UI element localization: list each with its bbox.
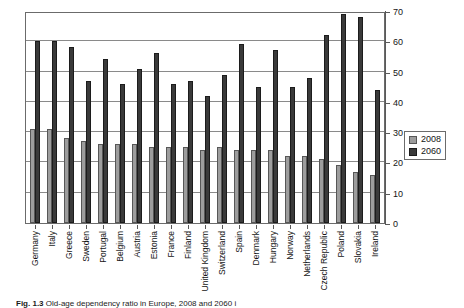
bar-group bbox=[27, 13, 44, 223]
x-tick bbox=[120, 225, 121, 229]
bar-2060 bbox=[69, 47, 74, 223]
x-label-slot: Finland bbox=[179, 225, 196, 297]
x-tick bbox=[86, 225, 87, 229]
x-tick-label: Sweden bbox=[81, 231, 90, 262]
x-tick bbox=[273, 225, 274, 229]
y-tick-0 bbox=[385, 224, 390, 225]
bar-2060 bbox=[137, 69, 142, 223]
figure-caption: Fig. 1.3 Old-age dependency ratio in Eur… bbox=[16, 299, 456, 308]
y-tick-60 bbox=[385, 42, 390, 43]
x-tick bbox=[222, 225, 223, 229]
bar-group bbox=[349, 13, 366, 223]
x-tick-label: France bbox=[166, 231, 175, 257]
x-tick-label: Portugal bbox=[98, 231, 107, 263]
x-axis-labels: GermanyItalyGreeceSwedenPortugalBelgiumA… bbox=[25, 225, 385, 297]
x-tick bbox=[52, 225, 53, 229]
chart-legend: 2008 2060 bbox=[404, 131, 446, 160]
x-tick bbox=[375, 225, 376, 229]
y-tick-30 bbox=[385, 133, 390, 134]
x-tick bbox=[35, 225, 36, 229]
bar-2060 bbox=[341, 14, 346, 223]
x-tick bbox=[69, 225, 70, 229]
bar-group bbox=[230, 13, 247, 223]
x-label-slot: Spain bbox=[231, 225, 248, 297]
bar-2060 bbox=[222, 75, 227, 223]
x-label-slot: Switzerland bbox=[214, 225, 231, 297]
bar-2060 bbox=[171, 84, 176, 223]
x-tick bbox=[188, 225, 189, 229]
x-tick bbox=[358, 225, 359, 229]
x-tick bbox=[205, 225, 206, 229]
y-axis: 010203040506070 bbox=[385, 12, 425, 224]
x-tick-label: Hungary bbox=[269, 231, 278, 263]
x-label-slot: Belgium bbox=[111, 225, 128, 297]
x-label-slot: Denmark bbox=[248, 225, 265, 297]
bar-2060 bbox=[52, 41, 57, 223]
bar-2060 bbox=[86, 81, 91, 223]
x-tick-label: Greece bbox=[64, 231, 73, 259]
bar-group bbox=[78, 13, 95, 223]
x-tick bbox=[341, 225, 342, 229]
legend-label-2008: 2008 bbox=[421, 135, 441, 144]
y-tick-label-70: 70 bbox=[393, 8, 403, 17]
x-label-slot: Slovakia bbox=[350, 225, 367, 297]
x-label-slot: Germany bbox=[26, 225, 43, 297]
bar-2060 bbox=[154, 53, 159, 223]
bar-group bbox=[298, 13, 315, 223]
x-tick-label: Czech Republic bbox=[320, 231, 329, 291]
x-tick-label: Austria bbox=[132, 231, 141, 257]
x-tick-label: Slovakia bbox=[354, 231, 363, 263]
x-tick bbox=[324, 225, 325, 229]
bar-group bbox=[180, 13, 197, 223]
x-label-slot: Ireland bbox=[367, 225, 384, 297]
x-tick bbox=[171, 225, 172, 229]
x-label-slot: Estonia bbox=[145, 225, 162, 297]
y-tick-50 bbox=[385, 73, 390, 74]
x-label-slot: Norway bbox=[282, 225, 299, 297]
y-tick-10 bbox=[385, 194, 390, 195]
bar-2060 bbox=[256, 87, 261, 223]
x-label-slot: Portugal bbox=[94, 225, 111, 297]
figure-old-age-dependency-ratio: 010203040506070 GermanyItalyGreeceSweden… bbox=[0, 0, 464, 308]
chart-plot-area bbox=[25, 12, 385, 224]
legend-item-2060: 2060 bbox=[409, 147, 441, 156]
x-tick bbox=[307, 225, 308, 229]
bars-layer bbox=[26, 13, 384, 223]
x-label-slot: Czech Republic bbox=[316, 225, 333, 297]
bar-2060 bbox=[188, 81, 193, 223]
bar-2060 bbox=[239, 44, 244, 223]
bar-group bbox=[332, 13, 349, 223]
x-label-slot: France bbox=[162, 225, 179, 297]
bar-group bbox=[315, 13, 332, 223]
bar-2060 bbox=[35, 41, 40, 223]
x-tick-label: Switzerland bbox=[218, 231, 227, 275]
bar-group bbox=[146, 13, 163, 223]
bar-group bbox=[112, 13, 129, 223]
y-tick-label-30: 30 bbox=[393, 129, 403, 138]
bar-2060 bbox=[358, 17, 363, 223]
x-tick-label: Poland bbox=[337, 231, 346, 257]
bar-group bbox=[129, 13, 146, 223]
bar-2060 bbox=[290, 87, 295, 223]
bar-group bbox=[61, 13, 78, 223]
figure-caption-number: Fig. 1.3 bbox=[16, 299, 44, 308]
y-tick-label-0: 0 bbox=[393, 220, 398, 229]
x-tick bbox=[154, 225, 155, 229]
y-tick-label-60: 60 bbox=[393, 38, 403, 47]
x-tick-label: United Kingdom bbox=[200, 231, 209, 291]
bar-group bbox=[197, 13, 214, 223]
legend-swatch-2008 bbox=[409, 136, 417, 144]
bar-group bbox=[264, 13, 281, 223]
bar-2060 bbox=[307, 78, 312, 223]
x-tick-label: Netherlands bbox=[303, 231, 312, 277]
bar-group bbox=[366, 13, 383, 223]
x-tick bbox=[239, 225, 240, 229]
x-tick-label: Norway bbox=[286, 231, 295, 260]
bar-2060 bbox=[375, 90, 380, 223]
bar-2060 bbox=[120, 84, 125, 223]
y-tick-label-40: 40 bbox=[393, 98, 403, 107]
x-label-slot: Netherlands bbox=[299, 225, 316, 297]
bar-group bbox=[281, 13, 298, 223]
x-label-slot: Poland bbox=[333, 225, 350, 297]
bar-2060 bbox=[273, 50, 278, 223]
